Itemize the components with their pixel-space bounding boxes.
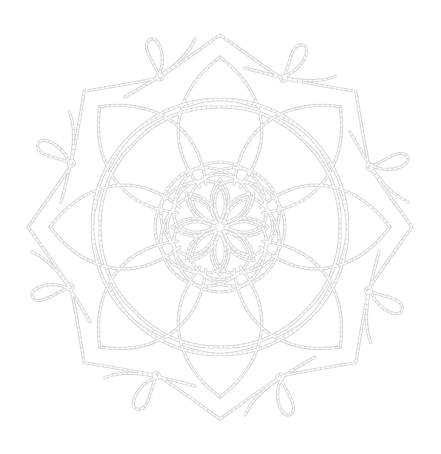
mandala-drawing [0, 0, 441, 454]
mandala-pattern [6, 13, 433, 440]
